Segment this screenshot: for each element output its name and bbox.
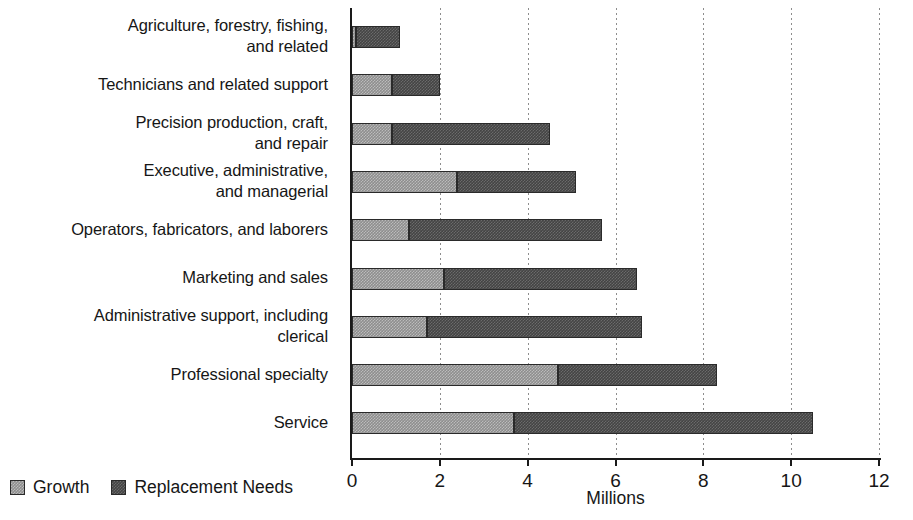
bar-row <box>352 219 879 241</box>
category-label-line: Professional specialty <box>0 364 328 385</box>
plot-area: 024681012 <box>352 8 879 458</box>
bar-segment-replacement <box>444 268 637 290</box>
bar-row <box>352 26 879 48</box>
bar-segment-replacement <box>558 364 716 386</box>
bar-row <box>352 268 879 290</box>
category-label: Agriculture, forestry, fishing,and relat… <box>0 15 328 57</box>
stacked-bar-chart: Agriculture, forestry, fishing,and relat… <box>0 0 913 520</box>
legend-label: Growth <box>33 477 89 498</box>
bar-row <box>352 171 879 193</box>
legend-label: Replacement Needs <box>134 477 293 498</box>
bar-segment-growth <box>352 219 409 241</box>
bar-segment-replacement <box>514 412 813 434</box>
category-label: Operators, fabricators, and laborers <box>0 219 328 240</box>
category-label: Professional specialty <box>0 364 328 385</box>
bar-segment-growth <box>352 171 457 193</box>
x-axis-title: Millions <box>352 488 879 509</box>
tick-0 <box>351 458 353 466</box>
tick-12 <box>878 458 880 466</box>
category-label: Technicians and related support <box>0 74 328 95</box>
bar-segment-replacement <box>356 26 400 48</box>
category-label: Administrative support, includingclerica… <box>0 305 328 347</box>
category-label-line: and related <box>0 36 328 57</box>
category-label-line: and repair <box>0 133 328 154</box>
legend-swatch-icon <box>10 480 25 495</box>
bar-segment-growth <box>352 268 444 290</box>
tick-6 <box>615 458 617 466</box>
bar-row <box>352 74 879 96</box>
bar-segment-replacement <box>392 123 550 145</box>
legend-item: Growth <box>10 477 89 498</box>
bar-row <box>352 316 879 338</box>
tick-10 <box>790 458 792 466</box>
bar-row <box>352 123 879 145</box>
category-label-line: and managerial <box>0 181 328 202</box>
category-label-line: Agriculture, forestry, fishing, <box>0 15 328 36</box>
bar-segment-replacement <box>392 74 440 96</box>
category-label: Service <box>0 412 328 433</box>
tick-4 <box>527 458 529 466</box>
tick-8 <box>702 458 704 466</box>
tick-2 <box>439 458 441 466</box>
bar-segment-replacement <box>427 316 642 338</box>
category-label: Precision production, craft,and repair <box>0 112 328 154</box>
category-label-line: Marketing and sales <box>0 267 328 288</box>
category-label-line: Precision production, craft, <box>0 112 328 133</box>
category-label-line: Technicians and related support <box>0 74 328 95</box>
bar-row <box>352 412 879 434</box>
bar-row <box>352 364 879 386</box>
category-label-line: Operators, fabricators, and laborers <box>0 219 328 240</box>
bar-segment-growth <box>352 123 392 145</box>
category-label-line: Executive, administrative, <box>0 160 328 181</box>
bar-segment-growth <box>352 316 427 338</box>
category-label: Marketing and sales <box>0 267 328 288</box>
bar-segment-growth <box>352 412 514 434</box>
category-axis-labels: Agriculture, forestry, fishing,and relat… <box>0 0 340 460</box>
category-label-line: Service <box>0 412 328 433</box>
bar-segment-replacement <box>409 219 602 241</box>
category-label-line: clerical <box>0 326 328 347</box>
category-label-line: Administrative support, including <box>0 305 328 326</box>
legend-swatch-icon <box>111 480 126 495</box>
bar-segment-growth <box>352 364 558 386</box>
category-label: Executive, administrative,and managerial <box>0 160 328 202</box>
bar-segment-growth <box>352 74 392 96</box>
gridline-12 <box>879 8 880 458</box>
chart-legend: GrowthReplacement Needs <box>10 477 293 498</box>
bar-segment-replacement <box>457 171 576 193</box>
legend-item: Replacement Needs <box>111 477 293 498</box>
